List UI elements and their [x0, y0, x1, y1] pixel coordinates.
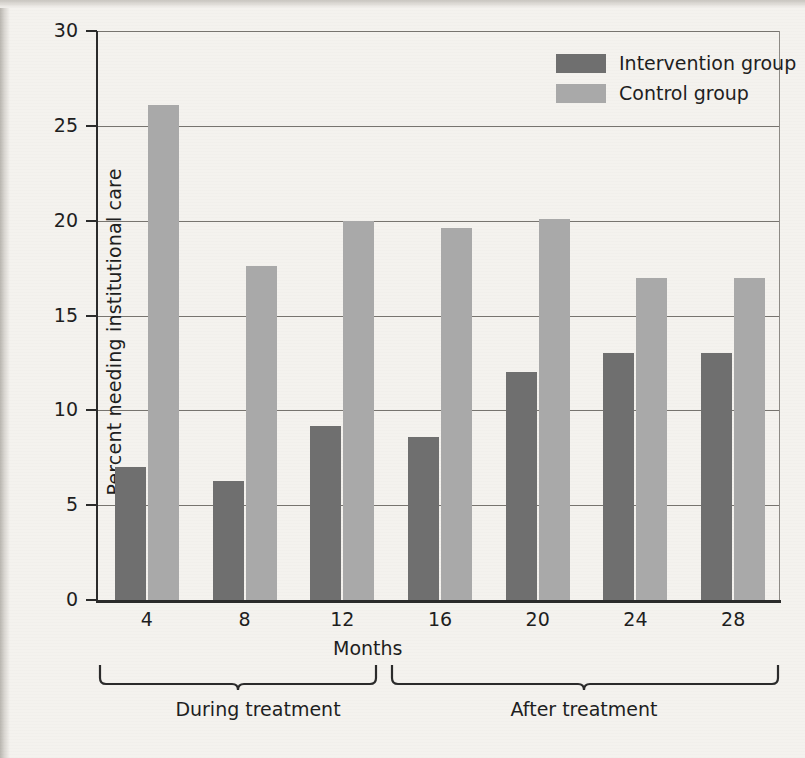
x-tick-label-24: 24 — [605, 608, 665, 630]
bar-intervention-month-12 — [310, 426, 341, 600]
chart-page: 051015202530 Percent needing institution… — [0, 0, 805, 758]
bar-control-month-8 — [246, 266, 277, 600]
bar-control-month-4 — [148, 105, 179, 600]
legend-label-intervention: Intervention group — [619, 52, 796, 74]
y-tick-label-0: 0 — [40, 590, 78, 609]
x-tick-label-8: 8 — [215, 608, 275, 630]
bracket-label-after: After treatment — [464, 698, 704, 720]
y-tick-label-wrap-20: 20 — [30, 211, 78, 231]
legend-item-control: Control group — [556, 78, 796, 108]
scan-edge-shadow-top — [0, 0, 805, 8]
bar-intervention-month-20 — [506, 372, 537, 600]
legend-label-control: Control group — [619, 82, 749, 104]
bar-control-month-24 — [636, 278, 667, 600]
chart-legend: Intervention group Control group — [556, 48, 796, 108]
bar-intervention-month-24 — [603, 353, 634, 600]
y-tick-label-15: 15 — [40, 306, 78, 325]
y-tick-label-wrap-5: 5 — [30, 495, 78, 515]
legend-swatch-intervention-icon — [556, 54, 606, 73]
x-axis-title: Months — [333, 637, 402, 659]
y-tick-label-wrap-25: 25 — [30, 116, 78, 136]
bar-control-month-20 — [539, 219, 570, 600]
y-tick-label-20: 20 — [40, 211, 78, 230]
x-tick-label-20: 20 — [508, 608, 568, 630]
y-tick-label-30: 30 — [40, 21, 78, 40]
bracket-label-during: During treatment — [138, 698, 378, 720]
legend-swatch-control-icon — [556, 84, 606, 103]
y-tick-label-10: 10 — [40, 400, 78, 419]
bracket-during-treatment — [100, 665, 376, 690]
bar-intervention-month-4 — [115, 467, 146, 600]
legend-item-intervention: Intervention group — [556, 48, 796, 78]
y-tick-label-wrap-10: 10 — [30, 400, 78, 420]
x-tick-label-12: 12 — [312, 608, 372, 630]
y-tick-label-25: 25 — [40, 116, 78, 135]
bar-intervention-month-8 — [213, 481, 244, 600]
x-tick-label-28: 28 — [703, 608, 763, 630]
bar-control-month-12 — [343, 221, 374, 600]
y-tick-label-wrap-0: 0 — [30, 590, 78, 610]
bars-group — [98, 31, 780, 600]
bar-control-month-16 — [441, 228, 472, 600]
bar-intervention-month-16 — [408, 437, 439, 600]
y-tick-label-wrap-30: 30 — [30, 21, 78, 41]
bracket-after-treatment — [392, 665, 778, 690]
y-tick-label-wrap-15: 15 — [30, 306, 78, 326]
scan-edge-shadow-left — [0, 0, 10, 758]
x-tick-label-4: 4 — [117, 608, 177, 630]
x-tick-label-16: 16 — [410, 608, 470, 630]
x-axis-line — [96, 600, 781, 603]
bar-intervention-month-28 — [701, 353, 732, 600]
y-tick-label-5: 5 — [40, 495, 78, 514]
bar-control-month-28 — [734, 278, 765, 600]
